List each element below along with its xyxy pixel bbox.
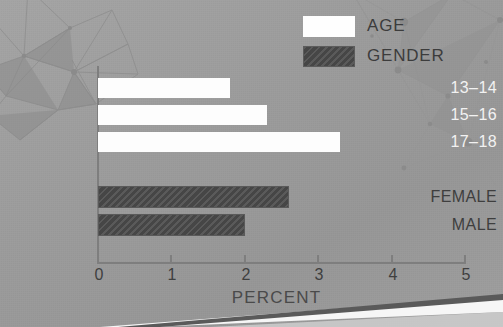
x-tick-label-5: 5 [446, 266, 486, 284]
x-axis-line [97, 262, 466, 264]
bar-gender-female [98, 186, 289, 208]
x-axis-title: PERCENT [0, 288, 503, 308]
legend-item-age: AGE [303, 13, 445, 39]
x-tick-2 [244, 255, 246, 263]
legend-swatch-gender-icon [303, 46, 355, 67]
bar-age-15-16 [98, 105, 267, 125]
category-label-female: FEMALE [411, 188, 503, 206]
slide-chart-canvas: 0 1 2 3 4 5 13–14 15–16 17–18 FEMALE MAL… [0, 0, 503, 327]
category-label-17-18: 17–18 [411, 133, 503, 151]
x-tick-label-3: 3 [299, 266, 339, 284]
x-tick-label-0: 0 [79, 266, 119, 284]
bar-gender-male [98, 214, 245, 236]
x-tick-label-4: 4 [373, 266, 413, 284]
x-tick-label-1: 1 [152, 266, 192, 284]
legend-item-gender: GENDER [303, 43, 445, 69]
legend-label-gender: GENDER [367, 46, 445, 66]
chart-legend: AGE GENDER [303, 13, 445, 73]
bar-age-13-14 [98, 78, 230, 98]
category-label-male: MALE [411, 216, 503, 234]
x-tick-3 [317, 255, 319, 263]
x-tick-0 [97, 255, 99, 263]
bar-age-17-18 [98, 132, 340, 152]
category-label-13-14: 13–14 [411, 79, 503, 97]
legend-swatch-age-icon [303, 16, 355, 37]
x-tick-label-2: 2 [226, 266, 266, 284]
legend-label-age: AGE [367, 16, 405, 36]
x-tick-1 [170, 255, 172, 263]
x-tick-4 [391, 255, 393, 263]
x-tick-5 [464, 255, 466, 263]
category-label-15-16: 15–16 [411, 106, 503, 124]
